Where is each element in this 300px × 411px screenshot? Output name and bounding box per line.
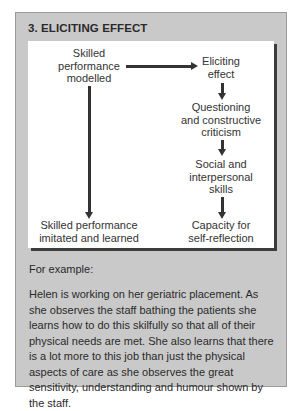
node-line: effect: [178, 68, 264, 81]
node-line: performance: [46, 60, 132, 73]
node-questioning-criticism: Questioning and constructive criticism: [168, 101, 274, 139]
node-line: Skilled: [46, 47, 132, 60]
node-line: modelled: [46, 72, 132, 85]
node-line: Questioning: [168, 101, 274, 114]
box-title: 3. ELICITING EFFECT: [28, 22, 147, 34]
node-line: interpersonal: [173, 171, 269, 184]
arrow-down-icon: [221, 140, 224, 150]
node-line: criticism: [168, 126, 274, 139]
node-skilled-performance-modelled: Skilled performance modelled: [46, 47, 132, 85]
arrow-down-icon: [221, 197, 224, 213]
node-line: skills: [173, 183, 269, 196]
node-line: Eliciting: [178, 55, 264, 68]
example-paragraph: Helen is working on her geriatric placem…: [29, 287, 279, 411]
eliciting-effect-box: 3. ELICITING EFFECT Skilled performance …: [15, 12, 287, 387]
node-social-interpersonal: Social and interpersonal skills: [173, 158, 269, 196]
arrow-down-icon: [88, 86, 91, 213]
node-eliciting-effect: Eliciting effect: [178, 55, 264, 80]
arrow-down-icon: [221, 83, 224, 94]
node-skilled-performance-imitated: Skilled performance imitated and learned: [28, 219, 150, 244]
node-capacity-self-reflection: Capacity for self-reflection: [173, 219, 269, 244]
example-label: For example:: [29, 263, 93, 275]
node-line: Capacity for: [173, 219, 269, 232]
node-line: and constructive: [168, 114, 274, 127]
node-line: Social and: [173, 158, 269, 171]
node-line: imitated and learned: [28, 232, 150, 245]
node-line: Skilled performance: [28, 219, 150, 232]
diagram-panel: Skilled performance modelled Skilled per…: [28, 41, 274, 248]
node-line: self-reflection: [173, 232, 269, 245]
